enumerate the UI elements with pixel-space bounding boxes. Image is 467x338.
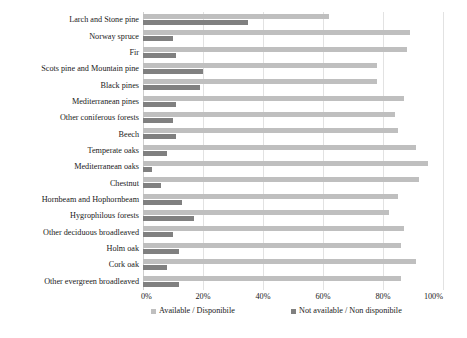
bar-row xyxy=(143,224,443,240)
bar-not-available xyxy=(143,265,167,270)
bar-row xyxy=(143,257,443,273)
bar-row xyxy=(143,143,443,159)
bar-available xyxy=(143,79,377,84)
bar-row xyxy=(143,192,443,208)
category-label: Hygrophilous forests xyxy=(70,212,139,220)
bar-row xyxy=(143,45,443,61)
bar-not-available xyxy=(143,151,167,156)
bar-rows xyxy=(143,12,443,290)
legend-label: Available / Disponibile xyxy=(159,307,235,315)
bar-available xyxy=(143,161,428,166)
bar-available xyxy=(143,145,416,150)
bar-not-available xyxy=(143,36,173,41)
bar-available xyxy=(143,243,401,248)
bar-available xyxy=(143,14,329,19)
chart-legend: Available / DisponibileNot available / N… xyxy=(143,307,463,321)
x-tick-label: 80% xyxy=(375,292,390,301)
category-label: Fir xyxy=(129,49,139,57)
category-label: Other evergreen broadleaved xyxy=(44,278,139,286)
bar-not-available xyxy=(143,69,203,74)
bar-row xyxy=(143,77,443,93)
bar-not-available xyxy=(143,85,200,90)
bar-available xyxy=(143,259,416,264)
category-label: Scots pine and Mountain pine xyxy=(41,65,139,73)
category-label: Other coniferous forests xyxy=(60,114,139,122)
bar-available xyxy=(143,112,395,117)
bar-row xyxy=(143,94,443,110)
legend-item: Not available / Non disponibile xyxy=(291,307,402,315)
bar-not-available xyxy=(143,232,173,237)
gridline-100 xyxy=(443,12,444,290)
bar-not-available xyxy=(143,183,161,188)
x-tick-label: 0% xyxy=(141,292,152,301)
bar-available xyxy=(143,128,398,133)
bar-available xyxy=(143,276,401,281)
category-label: Larch and Stone pine xyxy=(69,16,139,24)
x-tick-label: 40% xyxy=(255,292,270,301)
bar-available xyxy=(143,210,389,215)
bar-not-available xyxy=(143,134,176,139)
bar-not-available xyxy=(143,118,173,123)
legend-item: Available / Disponibile xyxy=(151,307,235,315)
bar-row xyxy=(143,28,443,44)
x-tick-label: 20% xyxy=(195,292,210,301)
category-label: Other deciduous broadleaved xyxy=(43,229,139,237)
legend-swatch-icon xyxy=(151,309,156,314)
legend-swatch-icon xyxy=(291,309,296,314)
category-label: Black pines xyxy=(101,82,139,90)
category-label: Hornbeam and Hophornbeam xyxy=(42,196,139,204)
bar-not-available xyxy=(143,200,182,205)
stacked-bar-chart: Larch and Stone pineNorway spruceFirScot… xyxy=(0,0,467,338)
bar-row xyxy=(143,110,443,126)
category-axis-labels: Larch and Stone pineNorway spruceFirScot… xyxy=(0,12,139,290)
bar-row xyxy=(143,274,443,290)
bar-row xyxy=(143,208,443,224)
x-tick-label: 100% xyxy=(424,292,443,301)
category-label: Norway spruce xyxy=(89,33,139,41)
bar-available xyxy=(143,226,404,231)
bar-available xyxy=(143,194,398,199)
bar-row xyxy=(143,241,443,257)
bar-not-available xyxy=(143,216,194,221)
bar-available xyxy=(143,177,419,182)
category-label: Holm oak xyxy=(106,245,139,253)
bar-available xyxy=(143,63,377,68)
bar-row xyxy=(143,12,443,28)
category-label: Beech xyxy=(119,131,139,139)
plot-area xyxy=(143,12,443,290)
bar-available xyxy=(143,47,407,52)
bar-available xyxy=(143,96,404,101)
category-label: Chestnut xyxy=(110,180,139,188)
bar-not-available xyxy=(143,282,179,287)
bar-not-available xyxy=(143,167,152,172)
bar-row xyxy=(143,159,443,175)
legend-label: Not available / Non disponibile xyxy=(299,307,402,315)
category-label: Temperate oaks xyxy=(88,147,139,155)
bar-row xyxy=(143,126,443,142)
bar-row xyxy=(143,61,443,77)
category-label: Mediterranean oaks xyxy=(74,163,139,171)
bar-available xyxy=(143,30,410,35)
x-tick-label: 60% xyxy=(315,292,330,301)
bar-not-available xyxy=(143,20,248,25)
bar-row xyxy=(143,175,443,191)
bar-not-available xyxy=(143,249,179,254)
x-axis-ticks: 0%20%40%60%80%100% xyxy=(143,292,443,304)
category-label: Mediterranean pines xyxy=(72,98,139,106)
category-label: Cork oak xyxy=(109,261,139,269)
bar-not-available xyxy=(143,53,176,58)
bar-not-available xyxy=(143,102,176,107)
